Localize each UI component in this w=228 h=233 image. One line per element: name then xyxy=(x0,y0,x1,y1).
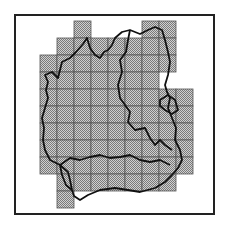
grid-cell xyxy=(159,157,176,174)
grid-cell xyxy=(125,72,142,89)
grid-cell xyxy=(176,123,193,140)
grid-cell xyxy=(108,140,125,157)
grid-cell xyxy=(91,123,108,140)
grid-cell xyxy=(74,72,91,89)
grid-cell xyxy=(159,123,176,140)
grid-cell xyxy=(74,140,91,157)
grid-cell xyxy=(57,191,74,208)
grid-cell xyxy=(91,106,108,123)
grid-cell xyxy=(74,55,91,72)
grid-cell xyxy=(91,89,108,106)
grid-cell xyxy=(159,174,176,191)
grid-cell xyxy=(57,140,74,157)
grid-cell xyxy=(40,55,57,72)
grid-cell xyxy=(125,55,142,72)
grid-cell xyxy=(176,89,193,106)
grid-cell xyxy=(142,106,159,123)
grid-cell xyxy=(40,157,57,174)
grid-cell xyxy=(74,21,91,38)
grid-cell xyxy=(91,72,108,89)
grid-cell xyxy=(57,38,74,55)
grid-cell xyxy=(108,106,125,123)
grid-cell xyxy=(74,106,91,123)
grid-cell xyxy=(74,123,91,140)
grid-cell xyxy=(57,89,74,106)
grid-cell xyxy=(74,174,91,191)
grid-cell xyxy=(176,106,193,123)
grid-cell xyxy=(108,123,125,140)
grid-cell xyxy=(142,72,159,89)
grid-cell xyxy=(142,55,159,72)
grid-cell xyxy=(108,157,125,174)
grid-cell xyxy=(108,72,125,89)
grid-cell xyxy=(142,89,159,106)
region-map xyxy=(0,0,228,233)
grid-cell xyxy=(125,89,142,106)
grid-cell xyxy=(125,123,142,140)
grid-cell xyxy=(40,140,57,157)
grid-cell xyxy=(108,89,125,106)
grid-cell xyxy=(57,106,74,123)
grid-cell xyxy=(125,140,142,157)
grid-cell xyxy=(74,89,91,106)
grid-cell xyxy=(159,55,176,72)
grid-cell xyxy=(91,157,108,174)
grid-cell xyxy=(142,157,159,174)
grid-cell xyxy=(142,38,159,55)
grid-cell xyxy=(57,123,74,140)
grid-cell xyxy=(125,174,142,191)
